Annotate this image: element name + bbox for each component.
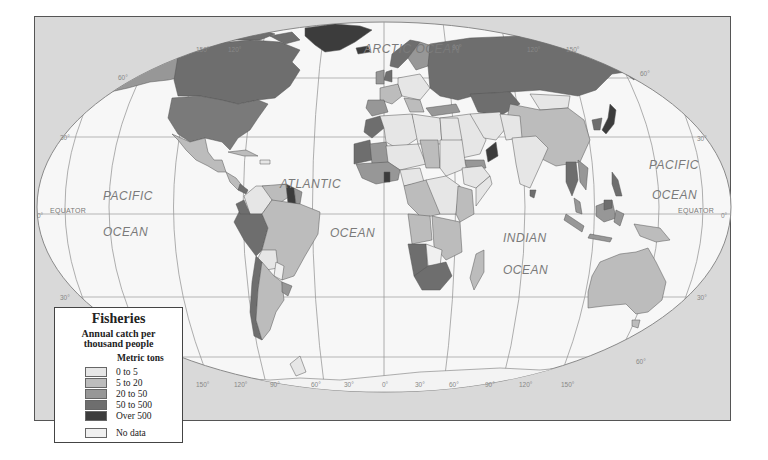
label-arctic-ocean: ARCTIC OCEAN [363, 42, 461, 56]
lon-label-bottom: 0° [382, 381, 389, 388]
lon-label-bottom: 60° [449, 381, 459, 388]
country-uk [376, 70, 384, 84]
legend-swatch [85, 411, 107, 421]
legend-item: 20 to 50 [85, 388, 147, 399]
label-ocean-west: OCEAN [103, 225, 148, 239]
legend-item: 50 to 500 [85, 399, 152, 410]
label-atlantic-ocean: OCEAN [330, 226, 375, 240]
legend-swatch [85, 367, 107, 377]
lat-label-0-east: 0° [721, 212, 728, 219]
country-angola [408, 214, 432, 244]
legend-swatch [85, 378, 107, 388]
lat-label-60n-west: 60° [118, 74, 128, 81]
lat-label-30n-west: 30° [60, 134, 70, 141]
lat-label-60n-east: 60° [640, 70, 650, 77]
lon-label-bottom: 90° [270, 381, 280, 388]
lon-label-bottom: 150° [196, 381, 210, 388]
lat-label-60s-east: 60° [636, 358, 646, 365]
label-equator-west: EQUATOR [50, 207, 86, 215]
legend-subtitle: Annual catch per thousand people [55, 329, 182, 349]
label-ocean-east: OCEAN [652, 188, 697, 202]
legend-title: Fisheries [55, 311, 182, 327]
lon-label-top: 120° [228, 46, 242, 53]
legend-swatch [85, 400, 107, 410]
lon-label-bottom: 30° [415, 381, 425, 388]
map-legend: Fisheries Annual catch per thousand peop… [54, 307, 183, 443]
legend-item: 5 to 20 [85, 377, 142, 388]
legend-swatch [85, 389, 107, 399]
lat-label-0-west: 0° [37, 212, 44, 219]
label-equator-east: EQUATOR [678, 207, 714, 215]
legend-swatch [85, 428, 107, 438]
lon-label-bottom: 120° [519, 381, 533, 388]
lon-label-top: 120° [527, 46, 541, 53]
lon-label-bottom: 30° [344, 381, 354, 388]
lon-label-top: 90° [452, 44, 462, 51]
label-pacific-west: PACIFIC [103, 189, 153, 203]
lon-label-bottom: 120° [234, 381, 248, 388]
legend-item: 0 to 5 [85, 366, 138, 377]
label-pacific-east: PACIFIC [649, 158, 699, 172]
country-western-sahara [354, 140, 372, 164]
lat-label-30s-east: 30° [697, 294, 707, 301]
label-indian-ocean: OCEAN [503, 263, 548, 277]
label-indian: INDIAN [503, 231, 547, 245]
legend-item: Over 500 [85, 410, 152, 421]
lat-label-30n-east: 30° [697, 135, 707, 142]
lon-label-top: 150° [566, 46, 580, 53]
lat-label-30s-west: 30° [60, 294, 70, 301]
label-atlantic: ATLANTIC [279, 177, 341, 191]
country-korea [592, 118, 602, 130]
lon-label-bottom: 60° [311, 381, 321, 388]
lon-label-bottom: 150° [561, 381, 575, 388]
lon-label-bottom: 90° [485, 381, 495, 388]
legend-unit: Metric tons [117, 353, 164, 363]
lon-label-top: 150° [196, 46, 210, 53]
legend-item-no-data: No data [85, 427, 146, 438]
